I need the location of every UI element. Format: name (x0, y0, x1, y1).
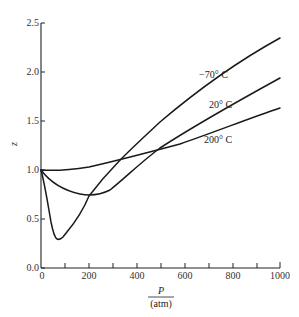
x-tick-800: 800 (226, 270, 241, 281)
y-tick-1.5: 1.5 (27, 115, 40, 126)
compressibility-chart: 0.0 0.5 1.0 1.5 2.0 2.5 0 200 400 600 80… (0, 0, 299, 317)
label-20C: 20° C (209, 99, 232, 110)
y-ticks (41, 23, 45, 268)
x-tick-labels: 0 200 400 600 800 1000 (40, 270, 291, 281)
y-tick-2.5: 2.5 (27, 17, 40, 28)
x-axis-label-p: P (157, 285, 164, 296)
series-minus70C (41, 38, 280, 239)
x-tick-1000: 1000 (270, 270, 290, 281)
series (41, 38, 280, 239)
x-tick-400: 400 (130, 270, 145, 281)
x-axis-label-unit: (atm) (150, 298, 172, 310)
y-tick-1.0: 1.0 (27, 164, 40, 175)
x-ticks (65, 262, 280, 268)
y-tick-labels: 0.0 0.5 1.0 1.5 2.0 2.5 (27, 17, 40, 273)
x-tick-600: 600 (178, 270, 193, 281)
y-tick-2.0: 2.0 (27, 66, 40, 77)
y-tick-0: 0.0 (27, 262, 40, 273)
x-tick-0: 0 (40, 270, 45, 281)
series-200C (41, 108, 280, 170)
label-200C: 200° C (204, 134, 232, 145)
y-axis-label: z (8, 142, 19, 147)
label-minus70C: −70° C (199, 69, 228, 80)
series-20C (41, 78, 280, 195)
y-tick-0.5: 0.5 (27, 213, 40, 224)
x-tick-200: 200 (82, 270, 97, 281)
